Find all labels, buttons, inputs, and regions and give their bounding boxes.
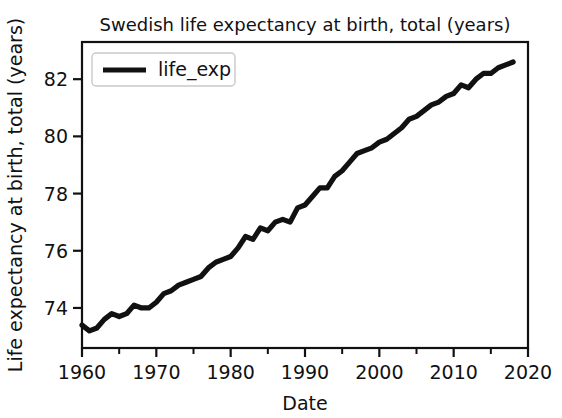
x-tick-label-1990: 1990 xyxy=(281,361,329,383)
y-axis-ticks: 7476788082 xyxy=(44,68,82,319)
legend-label-life_exp: life_exp xyxy=(158,58,231,81)
y-tick-label-82: 82 xyxy=(44,68,68,90)
y-tick-label-76: 76 xyxy=(44,240,68,262)
chart-figure: Swedish life expectancy at birth, total … xyxy=(0,0,562,418)
legend[interactable]: life_exp xyxy=(92,53,235,86)
series-line-life_exp xyxy=(82,62,513,331)
x-axis-title: Date xyxy=(282,392,327,414)
y-axis-title: Life expectancy at birth, total (years) xyxy=(4,18,26,372)
x-tick-label-1960: 1960 xyxy=(58,361,106,383)
line-chart: Swedish life expectancy at birth, total … xyxy=(0,0,562,418)
x-tick-label-2000: 2000 xyxy=(355,361,403,383)
x-axis-ticks: 1960197019801990200020102020 xyxy=(58,348,552,383)
y-tick-label-78: 78 xyxy=(44,183,68,205)
x-tick-label-1970: 1970 xyxy=(132,361,180,383)
x-tick-label-2020: 2020 xyxy=(504,361,552,383)
chart-title: Swedish life expectancy at birth, total … xyxy=(100,14,511,35)
y-tick-label-80: 80 xyxy=(44,125,68,147)
y-tick-label-74: 74 xyxy=(44,297,68,319)
x-tick-label-2010: 2010 xyxy=(429,361,477,383)
x-tick-label-1980: 1980 xyxy=(206,361,254,383)
